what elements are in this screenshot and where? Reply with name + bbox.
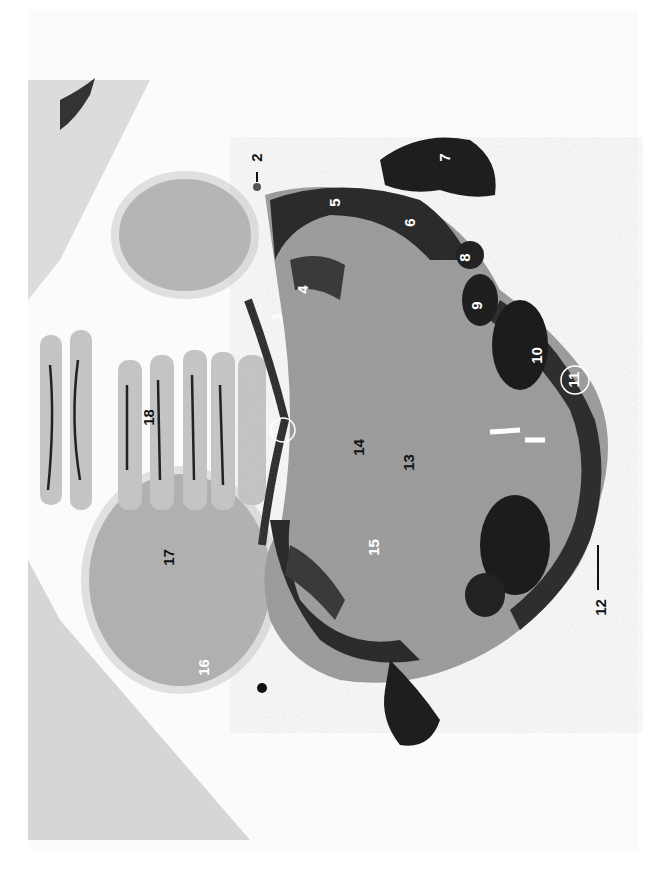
brain-section-drawing xyxy=(0,0,653,888)
label-5: 5 xyxy=(327,198,342,206)
label-12: 12 xyxy=(593,599,608,616)
label-17: 17 xyxy=(161,549,176,566)
label-9: 9 xyxy=(469,301,484,309)
label-7: 7 xyxy=(437,153,452,161)
label-4: 4 xyxy=(295,285,310,293)
label-8: 8 xyxy=(457,253,472,261)
label-14: 14 xyxy=(351,439,366,456)
label-6: 6 xyxy=(402,218,417,226)
label-13: 13 xyxy=(401,454,416,471)
label-18: 18 xyxy=(141,409,156,426)
label-11: 11 xyxy=(566,372,581,388)
label-15: 15 xyxy=(366,539,381,556)
label-3: 3 xyxy=(269,313,284,321)
label-16: 16 xyxy=(196,659,211,676)
label-2: 2 xyxy=(249,153,264,161)
label-10: 10 xyxy=(529,347,544,364)
